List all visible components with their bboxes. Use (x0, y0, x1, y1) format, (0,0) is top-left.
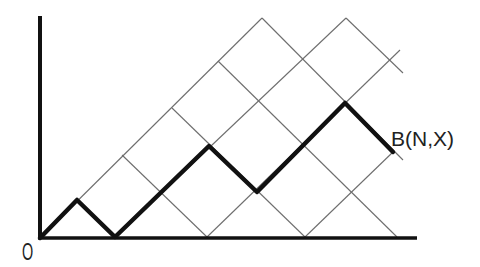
origin-label: O (22, 238, 33, 265)
endpoint-label: B(N,X) (391, 127, 454, 150)
lattice-up-line-3 (305, 152, 393, 237)
lattice-down-diagonals (77, 18, 403, 237)
walk-path (40, 103, 393, 238)
lattice-down-line-1 (122, 155, 207, 237)
lattice-down-line-3 (218, 61, 397, 237)
lattice-up-diagonals (40, 18, 400, 238)
random-walk-lattice-diagram: O B(N,X) (0, 0, 480, 267)
axes (38, 16, 417, 239)
lattice-down-line-5 (346, 18, 403, 73)
